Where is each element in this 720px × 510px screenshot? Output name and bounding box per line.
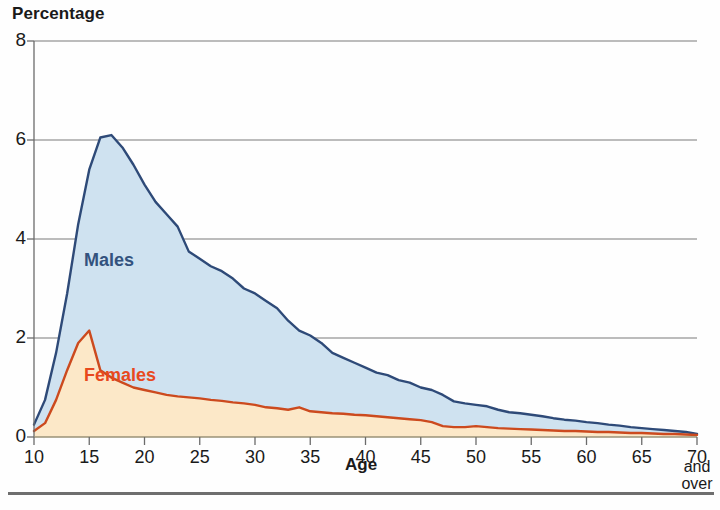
x-axis-title: Age xyxy=(345,455,377,475)
series-label-females: Females xyxy=(84,365,156,386)
x-tick-label-55: 55 xyxy=(508,447,554,468)
x-tick-label-25: 25 xyxy=(177,447,223,468)
x-tick-label-45: 45 xyxy=(398,447,444,468)
x-tick-label-65: 65 xyxy=(619,447,665,468)
chart-root: Percentage 02468 10152025303540455055606… xyxy=(0,0,720,510)
y-tick-label-6: 6 xyxy=(0,128,26,150)
y-tick-label-4: 4 xyxy=(0,227,26,249)
x-axis-last-tick-note-line2: over xyxy=(669,475,720,492)
x-tick-label-30: 30 xyxy=(232,447,278,468)
y-tick-label-0: 0 xyxy=(0,425,26,447)
x-axis-last-tick-note-line1: and xyxy=(669,458,720,475)
x-tick-label-15: 15 xyxy=(66,447,112,468)
series-label-males: Males xyxy=(84,250,134,271)
x-tick-label-10: 10 xyxy=(11,447,57,468)
x-tick-label-50: 50 xyxy=(453,447,499,468)
y-tick-label-2: 2 xyxy=(0,326,26,348)
y-tick-label-8: 8 xyxy=(0,29,26,51)
x-tick-label-20: 20 xyxy=(122,447,168,468)
bottom-divider xyxy=(8,492,714,495)
x-tick-label-35: 35 xyxy=(287,447,333,468)
x-tick-label-60: 60 xyxy=(564,447,610,468)
